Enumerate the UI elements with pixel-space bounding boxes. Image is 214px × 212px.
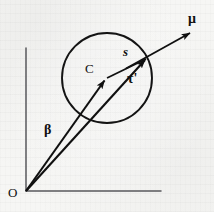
label-origin-o: O bbox=[8, 186, 17, 199]
figure-vector-graphics bbox=[0, 0, 214, 212]
label-tau-prime: τ' bbox=[127, 72, 137, 86]
vector-mu bbox=[126, 33, 190, 69]
label-s: s bbox=[123, 45, 128, 58]
figure-canvas: μ s C τ' β O bbox=[0, 0, 214, 212]
label-beta: β bbox=[44, 123, 51, 137]
label-center-c: C bbox=[85, 62, 94, 75]
label-mu: μ bbox=[188, 12, 196, 26]
